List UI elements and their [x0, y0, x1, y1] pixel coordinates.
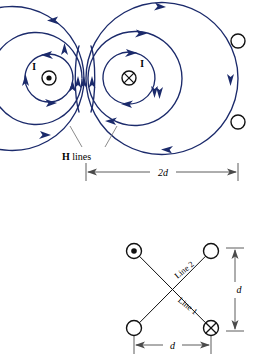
edge-conductor-bottom: [231, 115, 245, 129]
field-line-mid-left: [0, 33, 82, 125]
bottom-diagram: Line 2 Line 1: [127, 244, 245, 354]
field-line-outer-right: [86, 2, 238, 154]
right-conductor: [122, 71, 136, 85]
left-current-label: I: [32, 62, 36, 72]
physics-figure: I I H lines: [0, 0, 258, 354]
dimension-d-vertical-label: d: [237, 284, 243, 295]
node-top-left: [127, 244, 142, 259]
arrowhead-inner-left-bottom: [45, 99, 57, 107]
arrowhead-outer-right-side: [227, 74, 234, 86]
h-field-lines-group: [0, 2, 238, 154]
current-out-of-page-dot-icon: [46, 75, 51, 80]
arrowhead-outer-right-top: [154, 3, 166, 11]
arrowhead-inner-right-top: [125, 49, 137, 57]
dimension-d-horizontal: d: [134, 336, 211, 354]
right-current-label: I: [140, 59, 144, 69]
top-diagram: I I H lines: [0, 2, 245, 181]
arrowhead-outer-left-lower: [39, 131, 51, 139]
arrowhead-inner-left-top: [41, 51, 53, 59]
dimension-d-horizontal-label: d: [170, 340, 176, 351]
arrowhead-mid-right-top: [135, 30, 147, 38]
h-lines-leader-right: [105, 126, 117, 147]
arrowhead-outer-right-bottom: [161, 146, 173, 154]
dimension-2d: 2d: [86, 163, 238, 181]
node-top-right: [204, 244, 219, 259]
dimension-d-vertical: d: [226, 248, 244, 331]
h-lines-label: H lines: [62, 151, 91, 162]
h-lines-label-suffix: lines: [70, 151, 91, 162]
current-out-of-page-dot-icon-inset: [131, 248, 137, 254]
arrowhead-inner-right-side: [151, 86, 158, 98]
h-lines-leader-left: [70, 126, 82, 147]
node-bottom-left: [127, 321, 142, 336]
dimension-2d-label: 2d: [158, 167, 169, 178]
node-bottom-right: [204, 321, 219, 336]
left-conductor: [42, 71, 56, 85]
figure-canvas: I I H lines: [0, 0, 258, 354]
edge-conductor-top: [231, 34, 245, 48]
arrowhead-outer-left-top: [47, 17, 59, 25]
